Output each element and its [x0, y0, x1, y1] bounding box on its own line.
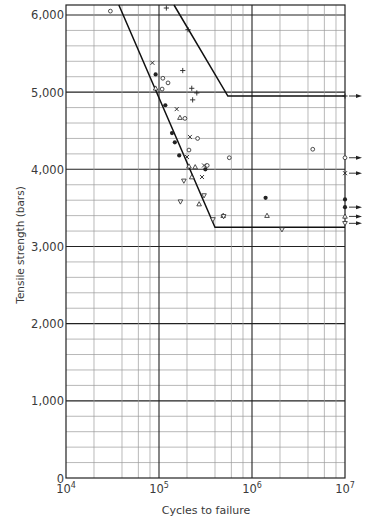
circle-marker — [311, 147, 315, 151]
plus-marker — [189, 86, 194, 91]
runout-arrow-icon — [349, 171, 362, 175]
runout-arrow-icon — [349, 156, 362, 160]
y-tick-label: 5,000 — [31, 86, 64, 100]
circle-marker — [187, 148, 191, 152]
filled-circle-marker — [177, 153, 181, 157]
circle-marker — [166, 81, 170, 85]
triangle-down-marker — [343, 222, 348, 226]
circle-marker — [343, 156, 347, 160]
circle-marker — [108, 9, 112, 13]
plot-frame — [66, 5, 345, 478]
filled-circle-marker — [173, 140, 177, 144]
y-tick-label: 2,000 — [31, 317, 64, 331]
filled-circle-marker — [163, 103, 167, 107]
runout-arrow-icon — [349, 221, 362, 225]
plus-marker — [342, 93, 347, 98]
x-tick-label: 106 — [242, 481, 262, 496]
y-axis-label: Tensile strength (bars) — [14, 186, 26, 305]
runout-arrow-icon — [349, 214, 362, 218]
triangle-marker — [343, 214, 348, 218]
y-tick-labels: 01,0002,0003,0004,0005,0006,000 — [31, 8, 64, 485]
plus-marker — [194, 90, 199, 95]
filled-circle-marker — [170, 131, 174, 135]
plus-marker — [180, 68, 185, 73]
triangle-marker — [197, 202, 202, 206]
circle-marker — [196, 137, 200, 141]
envelope-line-upper-bound — [174, 5, 345, 96]
triangle-marker — [193, 165, 198, 169]
filled-circle-marker — [203, 167, 207, 171]
circle-marker — [183, 116, 187, 120]
plus-marker — [164, 5, 169, 10]
grid-lines — [66, 5, 345, 478]
runout-arrow-icon — [349, 94, 362, 98]
circle-marker — [227, 156, 231, 160]
circle-marker — [161, 76, 165, 80]
data-points — [108, 5, 314, 232]
filled-circle-marker — [154, 72, 158, 76]
y-tick-label: 4,000 — [31, 163, 64, 177]
envelope-lines — [119, 5, 345, 227]
x-tick-label: 104 — [56, 481, 76, 496]
x-marker — [200, 175, 204, 179]
y-tick-label: 3,000 — [31, 240, 64, 254]
plus-marker — [190, 97, 195, 102]
x-axis-label: Cycles to failure — [162, 504, 251, 517]
filled-circle-marker — [263, 196, 267, 200]
triangle-down-marker — [182, 179, 187, 183]
runout-arrow-icon — [349, 205, 362, 209]
filled-circle-marker — [343, 205, 347, 209]
triangle-marker — [178, 115, 183, 119]
envelope-line-lower-bound — [119, 5, 345, 227]
circle-marker — [160, 87, 164, 91]
fatigue-chart: 01,0002,0003,0004,0005,0006,000 10410510… — [0, 0, 366, 524]
x-tick-labels: 104105106107 — [56, 481, 355, 496]
y-tick-label: 6,000 — [31, 8, 64, 22]
filled-circle-marker — [343, 197, 347, 201]
x-tick-label: 107 — [335, 481, 355, 496]
x-tick-label: 105 — [149, 481, 169, 496]
y-tick-label: 1,000 — [31, 394, 64, 408]
triangle-down-marker — [178, 200, 183, 204]
